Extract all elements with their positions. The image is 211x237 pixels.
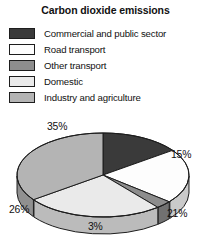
legend-swatch-other-transport xyxy=(9,60,35,71)
legend-item-road-transport: Road transport xyxy=(9,41,205,57)
legend-swatch-road-transport xyxy=(9,44,35,55)
legend-swatch-commercial-and-public-sector xyxy=(9,28,35,39)
slice-value-road-transport: 21% xyxy=(167,208,187,220)
slice-value-other-transport: 3% xyxy=(88,221,103,233)
chart-title: Carbon dioxide emissions xyxy=(0,4,211,17)
legend-label-industry-and-agriculture: Industry and agriculture xyxy=(44,92,141,103)
legend-label-other-transport: Other transport xyxy=(44,60,106,71)
slice-value-industry-and-agriculture: 35% xyxy=(47,121,67,133)
legend-label-road-transport: Road transport xyxy=(44,44,105,55)
legend-item-industry-and-agriculture: Industry and agriculture xyxy=(9,89,205,105)
slice-value-domestic: 26% xyxy=(9,204,29,216)
slice-value-commercial-and-public-sector: 15% xyxy=(171,149,191,161)
legend-label-commercial-and-public-sector: Commercial and public sector xyxy=(44,28,166,39)
legend-item-domestic: Domestic xyxy=(9,73,205,89)
chart-legend: Commercial and public sector Road transp… xyxy=(9,25,205,105)
legend-swatch-industry-and-agriculture xyxy=(9,92,35,103)
legend-swatch-domestic xyxy=(9,76,35,87)
legend-item-other-transport: Other transport xyxy=(9,57,205,73)
legend-item-commercial-and-public-sector: Commercial and public sector xyxy=(9,25,205,41)
pie-chart-figure: Carbon dioxide emissions Commercial and … xyxy=(0,0,211,237)
pie-plot-area: 35% 15% 21% 3% 26% xyxy=(0,118,211,237)
legend-label-domestic: Domestic xyxy=(44,76,83,87)
